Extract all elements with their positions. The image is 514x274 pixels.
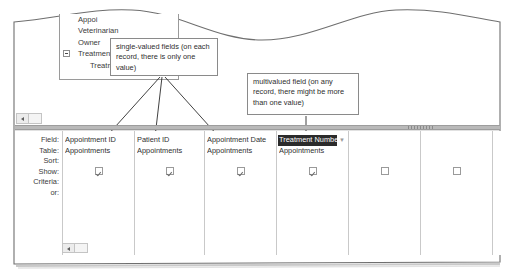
collapse-minus-icon[interactable] [63, 50, 70, 57]
field-list-item-label: Owner [78, 38, 100, 47]
show-checkbox[interactable] [381, 167, 389, 175]
chevron-down-icon[interactable]: ▼ [338, 136, 346, 145]
field-list-item-label: Appoi [78, 15, 97, 24]
field-list-item[interactable]: Appoi [60, 14, 190, 25]
grid-cell-table[interactable] [423, 146, 490, 157]
grid-row-label-field: Field: [15, 135, 62, 146]
callout-single-valued: single-valued fields (on each record, th… [110, 38, 218, 76]
grid-row-label-show: Show: [15, 167, 62, 178]
grid-cell-field[interactable]: Appointment Date [207, 135, 274, 146]
show-checkbox[interactable] [453, 167, 461, 175]
grid-cell-field[interactable] [423, 135, 490, 146]
grid-row-labels: Field: Table: Sort: Show: Criteria: or: [15, 131, 62, 199]
grid-cell-table[interactable] [351, 146, 418, 157]
grid-column[interactable]: Appointment Date Appointments [205, 131, 277, 255]
callout-multivalued: multivalued field (on any record, there … [247, 73, 359, 115]
grid-row-label-sort: Sort: [15, 156, 62, 167]
splitter-grip-handle[interactable] [408, 126, 434, 129]
grid-cell-field[interactable]: Appointment ID [65, 135, 132, 146]
show-checkbox[interactable] [166, 167, 174, 175]
show-checkbox[interactable] [309, 167, 317, 175]
scroll-left-arrow-icon[interactable] [17, 114, 29, 123]
show-checkbox[interactable] [237, 167, 245, 175]
grid-row-label-or: or: [15, 188, 62, 199]
scroll-left-arrow-icon[interactable] [63, 244, 75, 252]
grid-cell-table[interactable]: Appointments [207, 146, 274, 157]
grid-cell-show[interactable] [421, 167, 492, 175]
grid-cell-table[interactable]: Appointments [65, 146, 132, 157]
grid-horizontal-scrollbar[interactable] [62, 243, 88, 253]
grid-cell-show[interactable] [205, 167, 276, 175]
access-query-design-screenshot: Appoi Veterinarian Owner Treatment Nu Tr… [0, 0, 514, 274]
grid-cell-show[interactable] [63, 167, 134, 175]
field-list-item[interactable]: Veterinarian [60, 25, 190, 36]
show-checkbox[interactable] [95, 167, 103, 175]
grid-row-label-table: Table: [15, 146, 62, 157]
grid-column[interactable] [421, 131, 493, 255]
grid-cell-table[interactable]: Appointments [137, 146, 202, 157]
upper-pane-horizontal-scrollbar[interactable] [16, 113, 42, 124]
grid-cell-show[interactable] [349, 167, 420, 175]
query-design-grid: Field: Table: Sort: Show: Criteria: or: … [15, 131, 501, 255]
grid-columns: Appointment ID Appointments Patient ID A… [62, 131, 501, 255]
grid-cell-show[interactable] [135, 167, 204, 175]
grid-cell-show[interactable] [277, 167, 348, 175]
grid-column[interactable]: Patient ID Appointments [135, 131, 205, 255]
grid-cell-field[interactable] [351, 135, 418, 146]
field-list-item-label: Veterinarian [78, 26, 119, 35]
grid-column[interactable]: Appointment ID Appointments [63, 131, 135, 255]
grid-row-label-criteria: Criteria: [15, 177, 62, 188]
grid-cell-table[interactable]: Appointments [279, 146, 346, 157]
grid-column-selected[interactable]: Treatment Numbe ▼ Appointments [277, 131, 349, 255]
grid-cell-field[interactable]: Patient ID [137, 135, 202, 146]
grid-column[interactable] [349, 131, 421, 255]
grid-cell-field[interactable]: Treatment Numbe [278, 135, 337, 146]
